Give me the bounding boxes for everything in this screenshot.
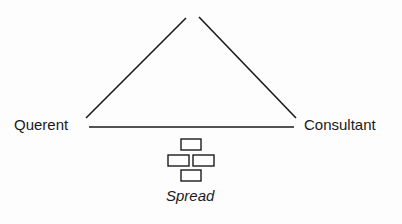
consultant-label: Consultant [304,116,376,133]
spread-label: Spread [166,187,214,204]
edge-top-consultant [199,17,296,118]
edge-querent-top [86,18,186,118]
querent-label: Querent [14,116,68,133]
card-spread-icon [168,139,214,181]
